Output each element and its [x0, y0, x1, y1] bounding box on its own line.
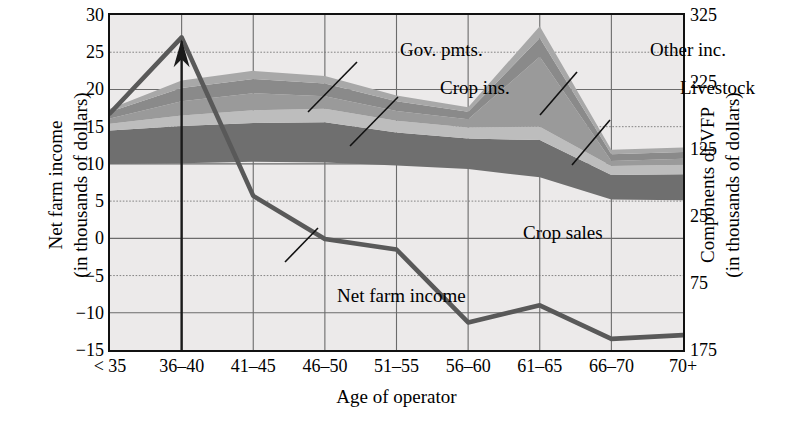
- y-tick-right: 325: [690, 6, 734, 24]
- x-axis-title: Age of operator: [108, 386, 685, 408]
- farm-income-chart: Net farm income (in thousands of dollars…: [0, 0, 791, 422]
- x-tick: 70+: [638, 355, 728, 377]
- annotation-other-inc: Other inc.: [650, 39, 726, 60]
- y-tick-right: 75: [690, 274, 734, 292]
- y-tick-left: 20: [60, 80, 104, 98]
- y-tick-left: 25: [60, 43, 104, 61]
- y-tick-left: 5: [60, 192, 104, 210]
- y-tick-left: −5: [60, 267, 104, 285]
- y-tick-left: −10: [60, 304, 104, 322]
- annotation-leader-line: [285, 228, 318, 262]
- annotation-crop-sales: Crop sales: [523, 222, 603, 243]
- y-tick-left: 0: [60, 229, 104, 247]
- y-tick-left: 15: [60, 118, 104, 136]
- annotation-livestock: Livestock: [680, 77, 755, 98]
- annotation-gov-pmts: Gov. pmts.: [400, 39, 483, 60]
- y-tick-right: 125: [690, 140, 734, 158]
- y-tick-left: 10: [60, 155, 104, 173]
- x-axis-ticks: < 3536–4041–4546–5051–5556–6061–6566–707…: [0, 355, 791, 381]
- annotation-crop-ins: Crop ins.: [440, 77, 510, 98]
- y-tick-right: 25: [690, 207, 734, 225]
- y-tick-left: 30: [60, 6, 104, 24]
- plot-area: Gov. pmts.Crop ins.Other inc.LivestockCr…: [108, 13, 685, 352]
- annotation-net-farm-income: Net farm income: [337, 285, 466, 306]
